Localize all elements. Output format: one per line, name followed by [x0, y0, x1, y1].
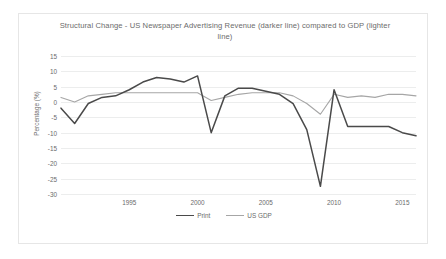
plot-area: 151050-5-10-15-20-25-30 1995200020052010…	[61, 56, 416, 194]
legend-swatch-icon	[226, 215, 244, 216]
y-axis-tick-label: -30	[48, 191, 57, 198]
y-axis-tick-label: -20	[48, 160, 57, 167]
legend-swatch-icon	[176, 215, 194, 216]
y-axis-tick-label: -10	[48, 129, 57, 136]
legend-item-us-gdp[interactable]: US GDP	[226, 212, 272, 219]
x-axis-tick-label: 1995	[122, 199, 136, 206]
gridline	[61, 194, 416, 195]
legend-label: US GDP	[247, 212, 272, 219]
chart-container: Structural Change - US Newspaper Adverti…	[18, 13, 428, 244]
chart-title: Structural Change - US Newspaper Adverti…	[53, 20, 397, 42]
x-axis-tick-label: 2015	[395, 199, 409, 206]
chart-legend: PrintUS GDP	[19, 212, 429, 219]
legend-label: Print	[197, 212, 210, 219]
y-axis-tick-label: -5	[51, 114, 57, 121]
y-axis-tick-label: -15	[48, 145, 57, 152]
y-axis-tick-label: 15	[50, 53, 57, 60]
y-axis-tick-label: 5	[53, 83, 57, 90]
x-axis-tick-label: 2000	[190, 199, 204, 206]
series-lines	[61, 56, 416, 194]
legend-item-print[interactable]: Print	[176, 212, 210, 219]
y-axis-title: Percentage (%)	[33, 74, 40, 154]
x-axis-tick-label: 2010	[327, 199, 341, 206]
y-axis-tick-label: -25	[48, 175, 57, 182]
x-axis-tick-label: 2005	[259, 199, 273, 206]
y-axis-tick-label: 10	[50, 68, 57, 75]
y-axis-tick-label: 0	[53, 99, 57, 106]
